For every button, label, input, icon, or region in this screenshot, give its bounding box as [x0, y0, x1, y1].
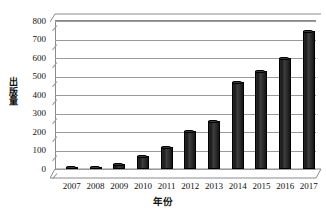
- bar: [303, 31, 315, 169]
- bar-top-cap: [279, 57, 289, 60]
- y-axis-tick-label: 0: [20, 165, 46, 174]
- x-axis-tick-labels: 2007200820092010201120122013201420152016…: [50, 181, 326, 193]
- bar: [137, 156, 149, 169]
- bar-top-cap: [137, 155, 147, 158]
- y-axis-tick-label: 700: [20, 35, 46, 44]
- bar-body: [232, 82, 244, 169]
- bar-body: [66, 167, 78, 169]
- y-axis-title: 出版量: [7, 78, 20, 107]
- bar-body: [279, 58, 291, 169]
- bar-top-cap: [90, 166, 100, 169]
- bar: [161, 147, 173, 169]
- bar: [279, 58, 291, 169]
- bar-chart: 出版量 0100200300400500600700800 2007200820…: [0, 0, 326, 220]
- y-axis-tick-label: 200: [20, 128, 46, 137]
- x-axis-tick-label: 2016: [273, 181, 297, 191]
- bar: [255, 71, 267, 169]
- bar-body: [303, 31, 315, 169]
- x-axis-tick-label: 2010: [131, 181, 155, 191]
- x-axis-tick-label: 2015: [249, 181, 273, 191]
- y-axis-tick-label: 500: [20, 72, 46, 81]
- bar: [113, 164, 125, 169]
- bar-top-cap: [184, 130, 194, 133]
- y-axis-tick-label: 800: [20, 17, 46, 26]
- bar-top-cap: [113, 163, 123, 166]
- x-axis-title: 年份: [0, 194, 326, 208]
- y-axis-tick-label: 400: [20, 91, 46, 100]
- bar-series: [50, 13, 322, 179]
- y-axis-tick-label: 100: [20, 146, 46, 155]
- bar-top-cap: [66, 166, 76, 169]
- bar: [90, 167, 102, 169]
- x-axis-tick-label: 2013: [202, 181, 226, 191]
- bar: [208, 121, 220, 169]
- bar-body: [137, 156, 149, 169]
- x-axis-tick-label: 2014: [226, 181, 250, 191]
- x-axis-tick-label: 2011: [155, 181, 179, 191]
- bar-body: [208, 121, 220, 169]
- bar-top-cap: [208, 120, 218, 123]
- bar-top-cap: [161, 146, 171, 149]
- bar-body: [255, 71, 267, 169]
- bar-top-cap: [303, 30, 313, 33]
- y-axis-tick-label: 600: [20, 54, 46, 63]
- x-axis-tick-label: 2007: [60, 181, 84, 191]
- x-axis-tick-label: 2012: [178, 181, 202, 191]
- bar-body: [161, 147, 173, 169]
- bar: [232, 82, 244, 169]
- x-axis-tick-label: 2008: [84, 181, 108, 191]
- bar-top-cap: [232, 81, 242, 84]
- bar-body: [113, 164, 125, 169]
- bar: [66, 167, 78, 169]
- bar-body: [90, 167, 102, 169]
- bar: [184, 131, 196, 169]
- x-axis-tick-label: 2009: [107, 181, 131, 191]
- bar-top-cap: [255, 70, 265, 73]
- y-axis-tick-labels: 0100200300400500600700800: [20, 0, 46, 220]
- y-axis-tick-label: 300: [20, 109, 46, 118]
- bar-body: [184, 131, 196, 169]
- x-axis-tick-label: 2017: [297, 181, 321, 191]
- figure-caption: [0, 211, 326, 220]
